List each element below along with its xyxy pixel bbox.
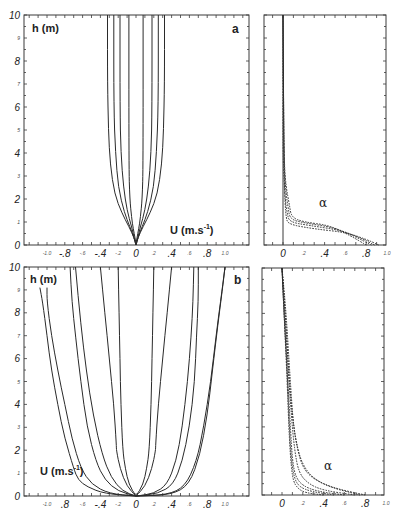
x-tick-label: -1.0 [43,250,52,256]
y-tick-label: 4 [14,399,20,410]
alpha-curve-alpha-3 [283,15,371,245]
alpha-curve-alpha-1 [283,15,379,245]
x-tick-label: 0 [133,248,139,259]
x-axis-title: U (m.s-1) [40,464,84,477]
velocity-profiles [108,15,165,245]
x-tick-label: .8 [203,248,212,259]
x-axis-title: U (m.s-1) [170,223,214,236]
velocity-curve-profile-6 [136,15,152,245]
y-tick-label: 5 [17,127,20,133]
x-tick-label: .4 [319,498,328,509]
x-tick-label: .6 [343,250,347,256]
y-tick-label: 2 [13,445,20,456]
x-tick-label: 1.0 [383,500,390,506]
x-tick-label: .8 [203,499,212,510]
velocity-curve-profile-4 [129,15,136,245]
velocity-curve-profile-6 [118,267,136,496]
x-axis-ticks: -1.0-.8-.6-.4-.20.2.4.6.81.0 [29,15,243,259]
alpha-label: α [319,196,327,210]
x-tick-label: .4 [167,248,176,259]
y-tick-label: 4 [14,148,20,159]
x-tick-label: -.6 [80,250,86,256]
y-tick-label: 8 [14,56,20,67]
alpha-curve-alpha-4 [283,15,366,245]
alpha-curve-alpha-2 [282,268,360,495]
y-axis-ticks [262,268,384,495]
x-tick-label: .4 [320,248,329,259]
y-axis-ticks [264,15,386,245]
velocity-curve-profile-5 [100,267,136,496]
x-tick-label: -.6 [80,501,86,507]
velocity-curve-profile-8 [136,267,172,496]
y-axis-title: h (m) [32,22,59,34]
y-tick-label: 2 [13,194,20,205]
velocity-curve-profile-7 [136,15,158,245]
panel-b-velocity-plot: 012345678910 -1.0.8-.6-.4-.20.2.4.6.81.0… [9,262,249,511]
alpha-profiles [283,15,379,245]
x-tick-label: .8 [362,248,371,259]
plot-frame [24,15,249,245]
y-tick-label: 10 [9,10,21,21]
y-tick-label: 6 [14,102,20,113]
velocity-curve-profile-4 [76,267,137,496]
y-tick-label: 3 [17,173,20,179]
panel-a-velocity-plot: 012345678910 -1.0-.8-.6-.4-.20.2.4.6.81.… [9,10,249,260]
y-tick-label: 10 [9,262,21,273]
panel-a-alpha-plot: 0.2.4.6.81.0 α [264,15,391,259]
plot-frame [24,267,249,496]
x-tick-label: .8 [361,498,370,509]
y-tick-label: 1 [17,219,20,225]
x-tick-label: .4 [167,499,176,510]
y-tick-label: 7 [17,333,20,339]
x-tick-label: 1.0 [384,250,391,256]
x-tick-label: 1.0 [222,501,229,507]
plot-frame [264,15,386,245]
velocity-curve-profile-2 [114,15,136,245]
velocity-curve-profile-9 [136,267,194,496]
plot-frame [262,268,384,495]
velocity-curve-profile-3 [70,267,136,496]
velocity-curve-profile-1 [108,15,137,245]
x-tick-label: -.2 [115,501,121,507]
velocity-profiles [40,267,225,496]
y-tick-label: 1 [17,470,20,476]
y-tick-label: 0 [14,491,20,502]
alpha-curve-alpha-2 [283,15,375,245]
y-tick-label: 9 [17,287,20,293]
y-tick-label: 7 [17,81,20,87]
x-tick-label: .2 [152,250,156,256]
velocity-curve-profile-12 [136,267,225,496]
x-tick-label: 0 [280,248,286,259]
y-axis-title: h (m) [30,273,57,285]
x-tick-label: .8 [61,499,70,510]
x-tick-label: -1.0 [43,501,52,507]
x-tick-label: 0 [279,498,285,509]
panel-b-alpha-plot: 0.2.4.6.81.0 α [262,268,390,509]
x-tick-label: 0 [133,499,139,510]
y-tick-label: 3 [17,424,20,430]
velocity-curve-profile-10 [136,267,198,496]
y-tick-label: 8 [14,307,20,318]
velocity-curve-profile-3 [120,15,136,245]
y-tick-label: 5 [17,379,20,385]
x-tick-label: .6 [187,250,191,256]
x-axis-ticks: 0.2.4.6.81.0 [273,15,391,259]
y-tick-label: 9 [17,35,20,41]
figure: 012345678910 -1.0-.8-.6-.4-.20.2.4.6.81.… [0,0,399,515]
alpha-label: α [324,459,332,473]
y-tick-label: 6 [14,353,20,364]
velocity-curve-profile-7 [136,267,154,496]
x-tick-label: .2 [152,501,156,507]
y-tick-label: 0 [14,240,20,251]
panel-letter-b: b [234,273,241,287]
alpha-curve-alpha-3 [282,268,355,495]
x-tick-label: .2 [301,500,305,506]
x-tick-label: -.4 [95,499,107,510]
velocity-curve-profile-5 [136,15,143,245]
panel-letter-a: a [232,22,239,36]
x-tick-label: .2 [302,250,306,256]
x-tick-label: 1.0 [222,250,229,256]
x-tick-label: .6 [187,501,191,507]
x-tick-label: .6 [342,500,346,506]
velocity-curve-profile-8 [136,15,165,245]
